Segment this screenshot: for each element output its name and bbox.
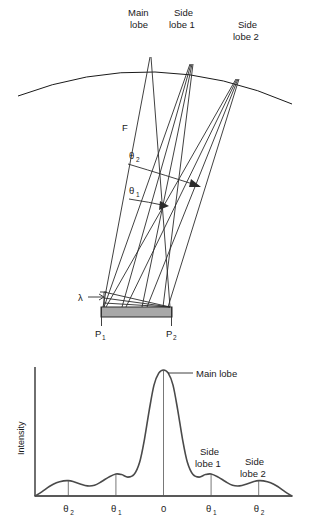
side-lobe1-annotation-line1: Side	[200, 446, 219, 457]
figure-container: Main lobe Side lobe 1 Side lobe 2 F θ 2 …	[0, 0, 310, 519]
chart-x-tick-label-sub: 1	[213, 509, 217, 516]
p1-label-sub: 1	[102, 334, 106, 341]
ray-main-right	[151, 57, 170, 307]
side-lobe2-label-line1: Side	[238, 19, 257, 30]
theta2-arc	[128, 164, 199, 186]
theta1-arrowhead	[159, 201, 169, 210]
side-lobe2-label-line2: lobe 2	[233, 31, 259, 42]
chart-x-tick-label-sub: 2	[70, 509, 74, 516]
chart-x-tick-label-sub: 1	[118, 509, 122, 516]
focal-label: F	[122, 122, 128, 133]
chart-x-tick-label: θ	[111, 503, 116, 514]
ray-side1-d	[163, 64, 193, 307]
main-lobe-label-line2: lobe	[130, 19, 148, 30]
grating-bar	[101, 307, 172, 317]
p2-label-sub: 2	[173, 334, 177, 341]
main-lobe-label-line1: Main	[128, 7, 149, 18]
bottom-chart: Intensity Main lobe Side lobe 1 Side lob…	[16, 367, 292, 516]
p2-label: P	[166, 328, 172, 339]
side-lobe2-annotation-line1: Side	[245, 456, 264, 467]
theta1-label: θ	[129, 185, 134, 196]
ray-side2-d	[168, 79, 239, 307]
ray-main-left	[103, 57, 150, 307]
lambda-label: λ	[78, 292, 83, 303]
p1-label: P	[95, 328, 101, 339]
ray-side2-c	[147, 79, 238, 307]
chart-x-tick-labels: θ2θ10θ1θ2	[63, 503, 264, 516]
theta2-label-sub: 2	[136, 156, 140, 163]
side-lobe1-annotation-line2: lobe 1	[195, 458, 221, 469]
chart-x-tick-label: θ	[206, 503, 211, 514]
chart-x-tick-label: 0	[161, 503, 166, 514]
chart-x-tick-label: θ	[63, 503, 68, 514]
chart-tick-lines	[68, 370, 258, 496]
theta1-label-sub: 1	[136, 191, 140, 198]
side-lobe1-label-line1: Side	[174, 7, 193, 18]
theta2-label: θ	[129, 150, 134, 161]
focal-arc	[18, 72, 292, 104]
chart-x-tick-label: θ	[254, 503, 259, 514]
chart-x-tick-label-sub: 2	[261, 509, 265, 516]
ray-side1-a	[104, 64, 190, 307]
figure-svg: Main lobe Side lobe 1 Side lobe 2 F θ 2 …	[0, 0, 310, 519]
side-lobe1-label-line2: lobe 1	[169, 19, 195, 30]
main-lobe-annotation: Main lobe	[196, 368, 237, 379]
ray-side2-a	[106, 79, 236, 307]
side-lobe2-annotation-line2: lobe 2	[240, 468, 266, 479]
chart-y-axis-label: Intensity	[16, 421, 26, 455]
top-diagram: Main lobe Side lobe 1 Side lobe 2 F θ 2 …	[18, 7, 292, 341]
theta2-arrowhead	[189, 179, 201, 187]
